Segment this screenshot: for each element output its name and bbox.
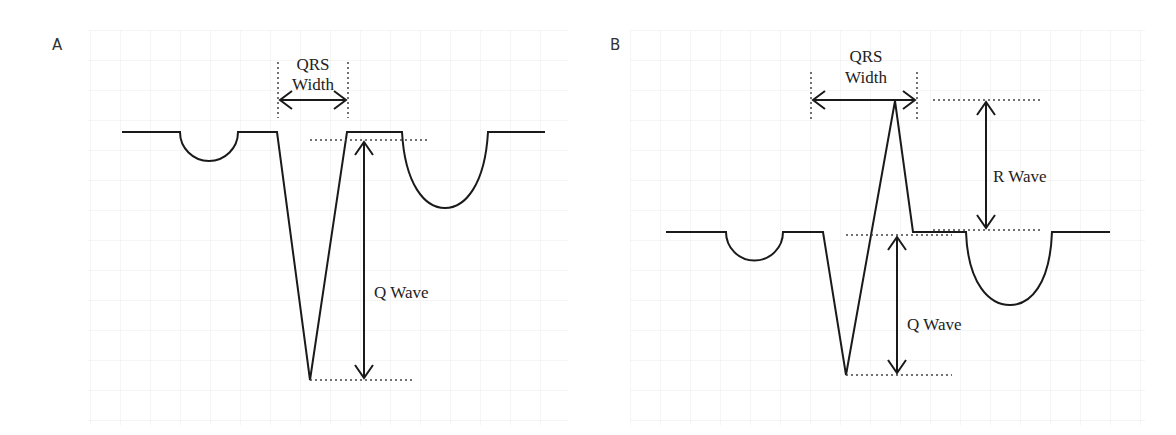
qrs-label-a-line1: QRS	[296, 55, 329, 74]
panel-label-b: B	[610, 36, 620, 54]
qrs-label-a-line2: Width	[292, 75, 334, 94]
ecg-diagram: A QRS Width Q Wave B	[0, 0, 1176, 435]
panel-b: B QRS Width R Wave Q Wave	[610, 30, 1145, 425]
q-wave-label-b: Q Wave	[907, 315, 962, 334]
panel-a: A QRS Width Q Wave	[52, 30, 568, 425]
q-wave-label-a: Q Wave	[374, 283, 429, 302]
qrs-label-b-line2: Width	[845, 68, 887, 87]
panel-label-a: A	[52, 36, 63, 54]
grid-background-b	[630, 30, 1145, 425]
r-wave-label-b: R Wave	[993, 167, 1047, 186]
qrs-label-b-line1: QRS	[849, 47, 882, 66]
